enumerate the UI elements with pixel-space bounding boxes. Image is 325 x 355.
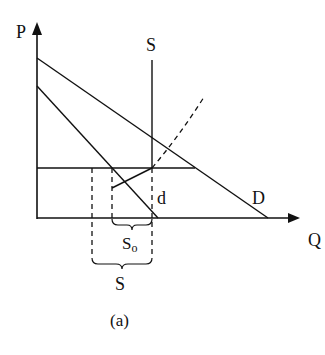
inner-brace — [112, 219, 152, 230]
dashed-supply-curve — [152, 97, 204, 168]
outer-brace — [92, 258, 152, 269]
d-label: d — [157, 188, 166, 208]
lower-demand-curve — [37, 86, 158, 218]
outer-brace-label: S — [115, 274, 125, 294]
d-segment — [112, 168, 152, 188]
demand-label: D — [252, 188, 265, 208]
p-axis-label: P — [16, 22, 26, 42]
inner-brace-label: So — [122, 234, 137, 255]
p-axis-arrow-icon — [32, 22, 42, 35]
economics-diagram: P Q S D d So S (a) — [0, 0, 325, 355]
q-axis-label: Q — [308, 230, 321, 250]
supply-label: S — [146, 35, 156, 55]
q-axis-arrow-icon — [288, 213, 300, 223]
figure-caption: (a) — [110, 311, 129, 330]
